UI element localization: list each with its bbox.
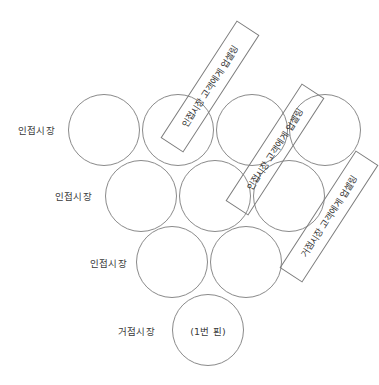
market-circle xyxy=(68,94,140,166)
row-label-base-market: 거점시장 xyxy=(118,324,155,338)
market-circle xyxy=(105,160,177,232)
row-label-adjacent-market-1: 인접시장 xyxy=(18,123,55,137)
row-label-adjacent-market-3: 인접시장 xyxy=(90,256,127,270)
market-circle xyxy=(136,226,208,298)
row-label-adjacent-market-2: 인접시장 xyxy=(55,189,92,203)
bowling-pin-market-diagram: (1번 핀) 인접시장 인접시장 인접시장 거점시장 인접시장 고객에게 업셀링… xyxy=(0,0,379,385)
base-pin-label: (1번 핀) xyxy=(172,324,244,338)
market-circle xyxy=(210,226,282,298)
